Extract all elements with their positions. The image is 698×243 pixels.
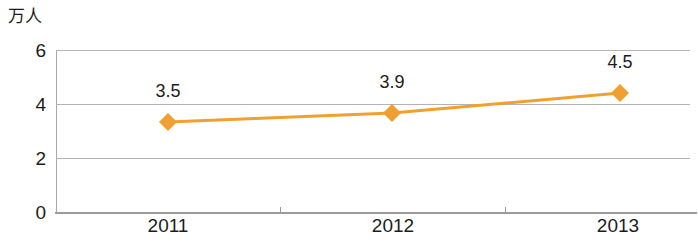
gridline-4: [56, 104, 690, 105]
y-axis-tick-0: 0: [12, 203, 46, 222]
x-axis-tickmark-1: [280, 207, 281, 213]
x-axis-tickmark-2: [505, 207, 506, 213]
x-axis-label-2011: 2011: [108, 216, 228, 235]
gridline-6: [56, 50, 690, 51]
chart-image: 万人 6 4 2 0 3.5 3.9 4.5 2011 2012 2013: [0, 0, 698, 243]
x-axis-line: [55, 212, 697, 214]
y-axis-tick-2: 2: [12, 149, 46, 168]
data-label-2011: 3.5: [128, 82, 208, 100]
y-axis-tick-4: 4: [12, 95, 46, 114]
x-axis-label-2012: 2012: [333, 216, 453, 235]
data-label-2012: 3.9: [352, 73, 432, 91]
data-label-2013: 4.5: [580, 53, 660, 71]
x-axis-label-2013: 2013: [558, 216, 678, 235]
gridline-2: [56, 158, 690, 159]
y-axis-tick-6: 6: [12, 41, 46, 60]
y-axis-tick-labels: 6 4 2 0: [6, 0, 46, 243]
y-axis-line: [56, 50, 57, 213]
